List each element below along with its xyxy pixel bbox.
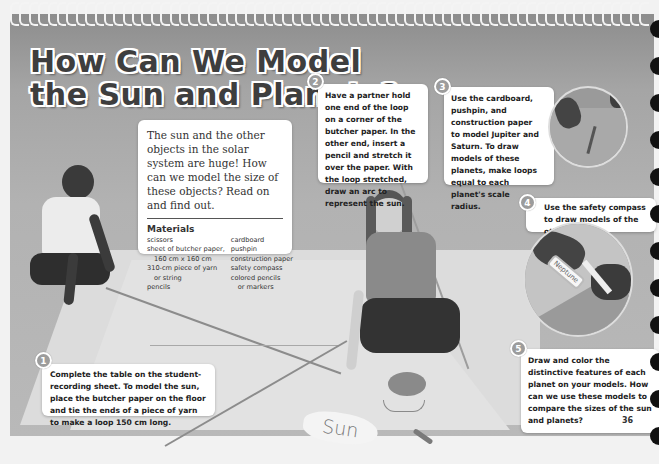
step-5-badge: 5 (510, 340, 527, 357)
material-item: or markers (231, 283, 293, 292)
page-number: 36 (622, 416, 633, 425)
spiral-coil (639, 2, 648, 26)
material-item: colored pencils (231, 274, 293, 283)
material-item: pushpin (231, 245, 293, 254)
spiral-coil (245, 2, 254, 26)
step-2-text: Have a partner hold one end of the loop … (325, 90, 421, 210)
step-1-card: Complete the table on the student-record… (42, 364, 215, 416)
material-item: safety compass (231, 264, 293, 273)
spiral-coil (170, 2, 179, 26)
spiral-coil (602, 2, 611, 26)
spiral-coil (480, 2, 489, 26)
divider (147, 218, 283, 219)
spiral-coil (95, 2, 104, 26)
step-2-card: Have a partner hold one end of the loop … (318, 84, 428, 183)
spiral-coil (442, 2, 451, 26)
binder-hole (650, 279, 659, 297)
binder-hole (650, 242, 659, 260)
spiral-coil (433, 2, 442, 26)
spiral-coil (198, 2, 207, 26)
material-item: pencils (147, 283, 225, 292)
binder-hole (650, 57, 659, 75)
spiral-coil (536, 2, 545, 26)
intro-card: The sun and the other objects in the sol… (138, 120, 292, 254)
step-5-card: Draw and color the distinctive features … (521, 349, 659, 433)
spiral-coil (395, 2, 404, 26)
spiral-coil (592, 2, 601, 26)
spiral-coil (188, 2, 197, 26)
spiral-coil (386, 2, 395, 26)
spiral-coil (85, 2, 94, 26)
spiral-coil (132, 2, 141, 26)
spiral-coil (273, 2, 282, 26)
spiral-coil (489, 2, 498, 26)
spiral-coil (414, 2, 423, 26)
material-item: 310-cm piece of yarn (147, 264, 225, 273)
spiral-coil (329, 2, 338, 26)
binder-holes (649, 20, 659, 460)
step-1-text: Complete the table on the student-record… (50, 369, 207, 429)
spiral-coil (151, 2, 160, 26)
spiral-coil (141, 2, 150, 26)
spiral-coil (564, 2, 573, 26)
fold-line (150, 345, 340, 346)
materials-list-left: scissorssheet of butcher paper,160 cm x … (147, 236, 225, 292)
spiral-coil (235, 2, 244, 26)
materials-list-right: cardboardpushpinconstruction papersafety… (231, 236, 293, 292)
spiral-coil (179, 2, 188, 26)
spiral-coil (555, 2, 564, 26)
material-item: 160 cm x 160 cm (147, 255, 225, 264)
spiral-coil (66, 2, 75, 26)
binder-hole (650, 390, 659, 408)
spiral-coil (207, 2, 216, 26)
binder-hole (650, 316, 659, 334)
materials-heading: Materials (147, 224, 283, 234)
spiral-coil (348, 2, 357, 26)
yarn-ball (388, 372, 426, 396)
spiral-coil (517, 2, 526, 26)
spiral-coil (404, 2, 413, 26)
spiral-coil (545, 2, 554, 26)
step-3-badge: 3 (434, 78, 451, 95)
spiral-coil (423, 2, 432, 26)
spiral-coil (583, 2, 592, 26)
boy-photo (22, 165, 132, 315)
spiral-coil (264, 2, 273, 26)
binder-hole (650, 20, 659, 38)
spiral-coil (292, 2, 301, 26)
spiral-coil (311, 2, 320, 26)
spiral-coil (630, 2, 639, 26)
binder-hole (650, 353, 659, 371)
spiral-coil (376, 2, 385, 26)
spiral-coil (367, 2, 376, 26)
spiral-coil (217, 2, 226, 26)
binder-hole (650, 427, 659, 445)
step-4-badge: 4 (519, 194, 536, 211)
binder-hole (650, 168, 659, 186)
spiral-coil (461, 2, 470, 26)
step-5-text: Draw and color the distinctive features … (528, 355, 652, 427)
spiral-coil (160, 2, 169, 26)
spiral-coil (29, 2, 38, 26)
spiral-coil (611, 2, 620, 26)
spiral-coil (57, 2, 66, 26)
spiral-coil (526, 2, 535, 26)
girl-photo (330, 190, 460, 380)
binder-hole (650, 94, 659, 112)
spiral-coil (48, 2, 57, 26)
step-2-badge: 2 (307, 73, 324, 90)
material-item: sheet of butcher paper, (147, 245, 225, 254)
spiral-coil (339, 2, 348, 26)
spiral-binding (10, 0, 654, 30)
spiral-coil (498, 2, 507, 26)
material-item: or string (147, 274, 225, 283)
material-item: scissors (147, 236, 225, 245)
spiral-coil (301, 2, 310, 26)
spiral-coil (10, 2, 19, 26)
yarn-line (106, 287, 342, 374)
step-3-card: Use the cardboard, pushpin, and construc… (444, 87, 554, 185)
spiral-coil (104, 2, 113, 26)
spiral-coil (573, 2, 582, 26)
material-item: construction paper (231, 255, 293, 264)
spiral-coil (113, 2, 122, 26)
